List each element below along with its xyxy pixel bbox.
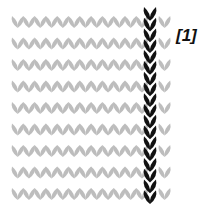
highlighted-stitch-column [144,7,157,204]
column-label: [1] [176,26,197,46]
